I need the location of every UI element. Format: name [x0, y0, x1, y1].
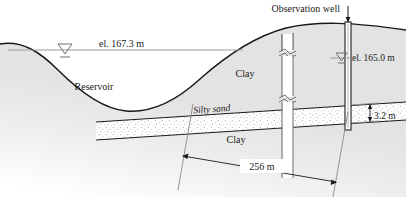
casing-upper-fill: [283, 34, 294, 51]
reservoir-label: Reservoir: [75, 81, 115, 92]
horizontal-distance-label: 256 m: [249, 161, 275, 172]
thickness-dimension-label: 3.2 m: [374, 111, 396, 121]
water-elevation-right-label: el. 165.0 m: [352, 53, 395, 63]
clay-lower-label: Clay: [227, 134, 246, 145]
geotechnical-cross-section-figure: el. 167.3 m Reservoir Clay Silty sand Cl…: [0, 0, 406, 197]
casing-lower-fill: [283, 102, 294, 178]
arrow-down-icon: [346, 6, 351, 23]
casing-mid-fill: [283, 56, 294, 97]
observation-well-label: Observation well: [271, 3, 340, 14]
water-elevation-left-label: el. 167.3 m: [99, 38, 144, 49]
clay-upper-label: Clay: [236, 68, 255, 79]
cross-section-drawing: el. 167.3 m Reservoir Clay Silty sand Cl…: [0, 0, 406, 197]
